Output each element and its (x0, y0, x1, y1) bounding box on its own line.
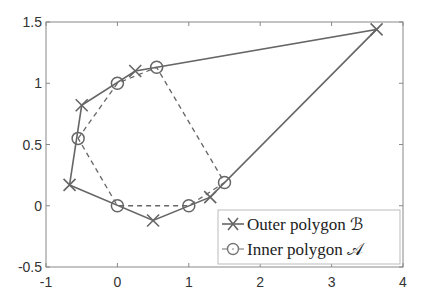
circle-marker-center (232, 248, 234, 250)
x-tick-label: 2 (256, 274, 264, 290)
x-marker-icon (204, 191, 216, 203)
legend-outer-label: Outer polygon ℬ (247, 215, 363, 234)
legend: Outer polygon ℬ Inner polygon 𝒜 (218, 210, 400, 264)
x-tick-label: 3 (328, 274, 336, 290)
x-tick-label: 4 (399, 274, 407, 290)
polygon-chart: -101234-0.500.511.5 Outer polygon ℬ Inne… (0, 0, 424, 305)
y-tick-label: 1 (34, 75, 42, 91)
y-tick-label: 0 (34, 198, 42, 214)
x-marker-icon (147, 214, 159, 226)
y-tick-label: -0.5 (18, 259, 42, 275)
plot-area (64, 23, 383, 226)
y-tick-label: 1.5 (23, 14, 43, 30)
polygon-line (78, 67, 224, 205)
x-tick-label: 1 (185, 274, 193, 290)
x-tick-label: 0 (114, 274, 122, 290)
x-tick-label: -1 (40, 274, 53, 290)
inner-polygon-series (72, 61, 230, 211)
legend-inner-label: Inner polygon 𝒜 (247, 240, 365, 259)
polygon-line (70, 29, 377, 220)
y-tick-label: 0.5 (23, 137, 43, 153)
